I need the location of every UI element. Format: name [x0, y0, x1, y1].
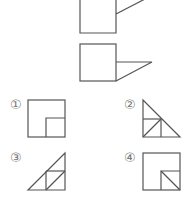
- diagram-canvas: [0, 0, 191, 198]
- option-3-number[interactable]: ③: [10, 151, 22, 164]
- option-2-figure[interactable]: [143, 100, 180, 137]
- option-2-number[interactable]: ②: [124, 98, 136, 111]
- option-3-figure[interactable]: [28, 153, 65, 190]
- option-1-figure[interactable]: [28, 100, 65, 137]
- option-4-figure[interactable]: [143, 153, 180, 190]
- figure-bottom: [80, 44, 152, 81]
- option-4-number[interactable]: ④: [124, 151, 136, 164]
- figure-top: [80, 0, 145, 33]
- option-1-number[interactable]: ①: [10, 98, 22, 111]
